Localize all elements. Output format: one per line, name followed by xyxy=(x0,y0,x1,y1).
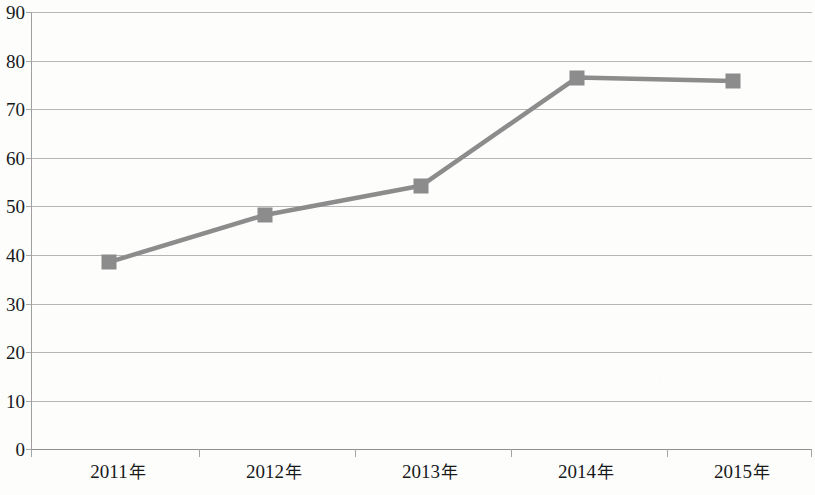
data-series-line xyxy=(0,0,815,495)
data-point-2012 xyxy=(258,208,273,223)
data-point-2013 xyxy=(414,178,429,193)
data-point-2011 xyxy=(102,255,117,270)
data-point-2014 xyxy=(570,70,585,85)
data-point-2015 xyxy=(726,73,741,88)
line-chart: 90 80 70 60 50 40 30 20 10 0 2011年 2012年… xyxy=(0,0,815,495)
